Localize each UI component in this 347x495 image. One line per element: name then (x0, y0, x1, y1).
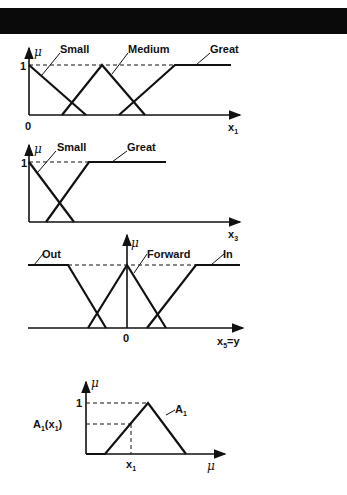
label-great: Great (127, 141, 156, 153)
leader-forward (134, 254, 147, 273)
chart-x1: μ 1 0 Small Medium Great x1 (20, 43, 240, 135)
x-axis-label: μ (207, 459, 215, 473)
leader-medium (112, 53, 128, 74)
label-medium: Medium (128, 43, 170, 55)
curve-medium (62, 65, 145, 115)
curve-great (46, 162, 166, 222)
label-small: Small (57, 141, 86, 153)
label-small: Small (60, 43, 89, 55)
x-tick-0: 0 (123, 332, 129, 344)
curve-a1 (86, 403, 186, 454)
x-axis-label: x1 (228, 121, 238, 135)
y-tick-1: 1 (21, 157, 27, 169)
leader-great (112, 151, 127, 162)
label-great: Great (210, 43, 239, 55)
leader-a1 (166, 410, 175, 415)
y-tick-1: 1 (20, 60, 26, 72)
chart-x3: μ 1 Small Great x3 (21, 141, 240, 242)
label-in: In (223, 248, 233, 260)
curve-great (119, 65, 231, 115)
y-axis-label: μ (34, 45, 42, 59)
label-out: Out (42, 248, 61, 260)
x-tick-x1: x1 (126, 458, 136, 472)
y-tick-1: 1 (76, 397, 82, 409)
leader-small (42, 53, 60, 75)
y-axis-label: μ (131, 236, 139, 250)
x-axis-label: x3 (228, 228, 238, 242)
label-forward: Forward (147, 248, 190, 260)
y-axis-label: μ (91, 376, 99, 390)
chart-a1: μ 1 A1(x1) x1 μ A1 (33, 376, 225, 473)
leader-great (196, 53, 210, 65)
x-tick-0: 0 (25, 120, 31, 132)
y-axis-label: μ (34, 142, 42, 156)
fuzzy-membership-diagram: μ 1 0 Small Medium Great x1 μ 1 Small Gr… (0, 0, 347, 495)
chart-x5: μ Out Forward In 0 x5=y (28, 235, 243, 349)
x-axis-label: x5=y (217, 335, 240, 349)
curve-small (29, 65, 86, 115)
y-tick-a1x1: A1(x1) (33, 418, 63, 432)
label-a1: A1 (175, 403, 187, 417)
